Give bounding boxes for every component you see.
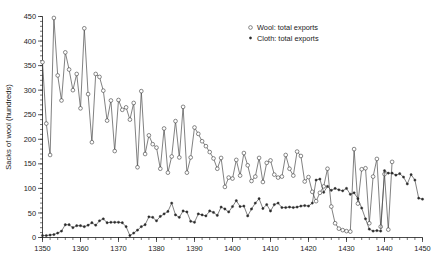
data-point-marker [45, 234, 47, 236]
data-point-marker [87, 224, 89, 226]
data-point-marker [391, 172, 393, 174]
data-point-marker [174, 214, 176, 216]
data-point-marker [53, 233, 55, 235]
data-point-marker [257, 156, 261, 160]
legend-marker-open-circle-icon [249, 26, 253, 30]
data-point-marker [269, 159, 273, 163]
x-tick-label: 1400 [224, 244, 240, 253]
data-point-marker [315, 179, 317, 181]
y-axis-title: Sacks of wool (hundreds) [4, 84, 13, 170]
data-point-marker [329, 205, 333, 209]
data-point-marker [390, 160, 394, 164]
data-point-marker [303, 180, 307, 184]
data-point-marker [296, 206, 298, 208]
data-point-marker [235, 200, 237, 202]
data-point-marker [276, 176, 280, 180]
data-point-marker [151, 142, 155, 146]
data-point-marker [243, 205, 245, 207]
data-point-marker [288, 206, 290, 208]
legend-marker-filled-circle-icon [249, 37, 251, 39]
data-point-marker [353, 192, 355, 194]
data-point-marker [307, 175, 311, 179]
legend-item-cloth[interactable]: Cloth: total exports [249, 34, 319, 43]
data-point-marker [285, 206, 287, 208]
data-point-marker [105, 119, 109, 123]
legend-label: Cloth: total exports [257, 34, 319, 43]
data-point-marker [205, 215, 207, 217]
data-point-marker [98, 220, 100, 222]
data-point-marker [333, 221, 337, 225]
data-point-marker [253, 175, 257, 179]
data-point-marker [307, 205, 309, 207]
data-point-marker [132, 101, 136, 105]
data-point-marker [79, 106, 83, 110]
y-tick-label: 0 [32, 233, 36, 242]
data-point-marker [117, 221, 119, 223]
y-tick-label: 250 [24, 110, 36, 119]
data-point-marker [197, 213, 199, 215]
data-point-marker [171, 202, 173, 204]
data-point-marker [82, 26, 86, 30]
data-point-marker [200, 139, 204, 143]
data-point-marker [360, 167, 364, 171]
data-point-marker [258, 198, 260, 200]
data-point-marker [91, 222, 93, 224]
data-point-marker [247, 215, 249, 217]
data-point-marker [129, 234, 131, 236]
data-point-marker [418, 197, 420, 199]
data-point-marker [371, 175, 375, 179]
data-point-marker [265, 161, 269, 165]
data-point-marker [273, 203, 275, 205]
data-point-marker [402, 176, 404, 178]
y-tick-label: 300 [24, 86, 36, 95]
data-point-marker [186, 211, 188, 213]
x-tick-label: 1440 [376, 244, 392, 253]
x-tick-label: 1430 [338, 244, 354, 253]
data-point-marker [348, 230, 352, 234]
data-point-marker [193, 221, 195, 223]
data-point-marker [139, 89, 143, 93]
data-point-marker [196, 132, 200, 136]
data-point-marker [79, 225, 81, 227]
data-point-marker [215, 167, 219, 171]
data-point-marker [242, 151, 246, 155]
data-point-marker [231, 177, 235, 181]
data-point-marker [189, 156, 193, 160]
data-point-marker [410, 173, 412, 175]
data-point-marker [238, 174, 242, 178]
x-tick-label: 1450 [414, 244, 430, 253]
data-point-marker [304, 204, 306, 206]
data-point-marker [219, 156, 223, 160]
x-tick-label: 1410 [262, 244, 278, 253]
data-point-marker [352, 147, 356, 151]
x-tick-label: 1420 [300, 244, 316, 253]
data-point-marker [177, 156, 181, 160]
data-point-marker [414, 179, 416, 181]
data-point-marker [71, 88, 75, 92]
data-point-marker [349, 193, 351, 195]
data-point-marker [121, 222, 123, 224]
data-point-marker [60, 99, 64, 103]
data-point-marker [106, 222, 108, 224]
data-point-marker [368, 228, 370, 230]
data-point-marker [292, 206, 294, 208]
data-point-marker [44, 122, 48, 126]
data-point-marker [124, 106, 128, 110]
data-point-marker [326, 185, 328, 187]
data-point-marker [376, 229, 378, 231]
data-point-marker [272, 173, 276, 177]
data-point-marker [152, 216, 154, 218]
data-point-marker [83, 226, 85, 228]
data-point-marker [224, 208, 226, 210]
y-tick-label: 400 [24, 37, 36, 46]
data-point-marker [216, 214, 218, 216]
data-point-marker [208, 150, 212, 154]
data-point-marker [361, 207, 363, 209]
data-point-marker [193, 126, 197, 130]
axis-label-layer: Sacks of wool (hundreds) [4, 84, 13, 170]
legend-item-wool[interactable]: Wool: total exports [249, 23, 319, 32]
y-tick-label: 100 [24, 184, 36, 193]
x-tick-label: 1370 [110, 244, 126, 253]
data-point-marker [254, 202, 256, 204]
legend-layer[interactable]: Wool: total exportsCloth: total exports [249, 23, 319, 43]
